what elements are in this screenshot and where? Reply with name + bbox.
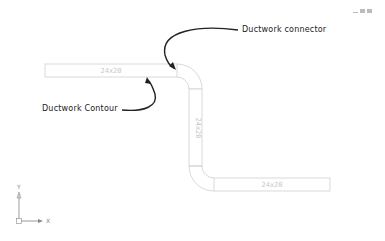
duct-segment-top[interactable]: 24x20 [45,64,177,77]
duct-size-label: 24x20 [100,67,121,75]
duct-elbow-top[interactable] [177,64,202,89]
contour-leader-arrow [122,77,155,110]
ductwork-connector-label: Ductwork connector [242,25,326,34]
ucs-y-label: Y [16,183,21,190]
drawing-canvas[interactable]: 24x20 24x20 24x20 Y X [0,0,385,241]
duct-segment-vertical[interactable]: 24x20 [189,89,202,166]
ucs-x-label: X [46,217,50,224]
ductwork-contour-label: Ductwork Contour [42,104,118,113]
duct-size-label: 24x20 [261,181,282,189]
duct-segment-bottom[interactable]: 24x20 [214,178,330,191]
duct-elbow-bottom[interactable] [189,166,214,191]
ucs-icon: Y X [16,183,50,224]
duct-size-label: 24x20 [194,117,202,138]
